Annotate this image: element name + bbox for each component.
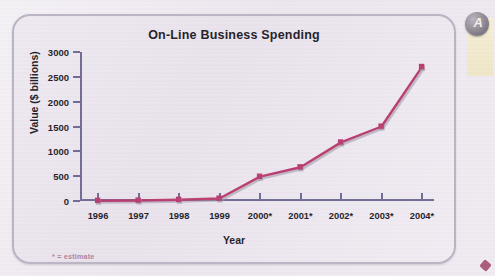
series-line-shadow bbox=[100, 69, 424, 203]
x-tick-label: 2001* bbox=[288, 211, 312, 221]
y-tick bbox=[73, 150, 80, 152]
y-tick-label: 1500 bbox=[48, 121, 69, 132]
x-tick-label: 1999 bbox=[209, 211, 230, 221]
margin-badge-letter: A bbox=[474, 15, 483, 30]
x-tick-label: 2004* bbox=[410, 211, 434, 221]
data-point-marker bbox=[378, 123, 383, 128]
x-tick-label: 2003* bbox=[369, 211, 393, 221]
chart-title: On-Line Business Spending bbox=[14, 28, 454, 42]
estimate-footnote: * = estimate bbox=[52, 252, 95, 261]
data-point-marker bbox=[135, 197, 140, 202]
scanned-page-background: On-Line Business Spending Value ($ billi… bbox=[0, 0, 495, 276]
margin-dot-icon bbox=[479, 259, 492, 272]
data-point-marker bbox=[257, 174, 262, 179]
y-tick bbox=[73, 175, 80, 177]
y-tick-label: 3000 bbox=[48, 47, 69, 58]
data-point-marker bbox=[176, 197, 181, 202]
y-tick-label: 2000 bbox=[48, 96, 69, 107]
data-point-marker bbox=[338, 139, 343, 144]
x-tick-label: 2002* bbox=[329, 211, 353, 221]
y-tick bbox=[73, 76, 80, 78]
data-point-marker bbox=[419, 64, 424, 69]
plot-area: 050010001500200025003000 199619971998199… bbox=[80, 52, 434, 201]
page-margin-decoration: A bbox=[465, 0, 495, 276]
data-point-marker bbox=[95, 198, 100, 203]
y-tick-label: 500 bbox=[53, 171, 69, 182]
y-tick bbox=[73, 200, 80, 202]
y-tick bbox=[73, 101, 80, 103]
y-tick-label: 1000 bbox=[48, 146, 69, 157]
x-tick-label: 2000* bbox=[248, 211, 272, 221]
chart-figure-card: On-Line Business Spending Value ($ billi… bbox=[12, 14, 456, 264]
y-tick bbox=[73, 126, 80, 128]
x-tick-label: 1996 bbox=[88, 211, 109, 221]
y-tick-label: 0 bbox=[64, 196, 69, 207]
x-axis-title: Year bbox=[14, 234, 454, 246]
y-tick-label: 2500 bbox=[48, 71, 69, 82]
x-tick-label: 1998 bbox=[169, 211, 190, 221]
data-point-marker bbox=[216, 195, 221, 200]
data-point-marker bbox=[297, 164, 302, 169]
x-tick-label: 1997 bbox=[128, 211, 149, 221]
y-tick bbox=[73, 51, 80, 53]
y-axis-title: Value ($ billions) bbox=[28, 51, 40, 134]
spending-line-series bbox=[80, 52, 434, 201]
